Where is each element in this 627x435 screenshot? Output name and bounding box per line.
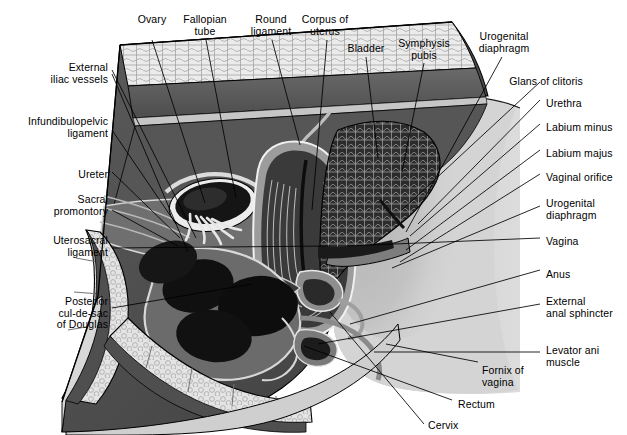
label-ovary-line: Ovary [138,14,167,26]
label-rectum-line: Rectum [458,399,495,411]
label-external-anal-sphincter: Externalanal sphincter [546,296,613,319]
label-urethra: Urethra [546,98,582,110]
label-symphysis-pubis: Symphysispubis [398,38,450,61]
label-uterosacral-ligament-line: ligament [53,247,108,259]
label-infundibulopelvic-ligament: Infundibulopelvicligament [28,116,108,139]
label-urethra-line: Urethra [546,98,582,110]
label-external-anal-sphincter-line: anal sphincter [546,308,613,320]
label-bladder: Bladder [348,43,385,55]
label-round-ligament-line: ligament [251,26,292,38]
label-glans-of-clitoris: Glans of clitoris [509,76,583,88]
label-bladder-line: Bladder [348,43,385,55]
label-ureter-line: Ureter [78,169,108,181]
label-external-iliac-vessels-line: External [51,62,108,74]
label-urogenital-diaphragm-right-line: Urogenital [546,198,597,210]
label-vaginal-orifice: Vaginal orifice [546,172,613,184]
label-anus: Anus [546,269,570,281]
label-external-iliac-vessels: Externaliliac vessels [51,62,108,85]
label-urogenital-diaphragm-top: Urogenitaldiaphragm [479,31,530,54]
label-cervix-line: Cervix [428,420,458,432]
label-corpus-uteri-line: Corpus of [302,14,348,26]
label-corpus-uteri: Corpus ofuterus [302,14,348,37]
label-levator-ani-muscle: Levator animuscle [546,345,599,368]
label-vaginal-orifice-line: Vaginal orifice [546,172,613,184]
label-vagina-line: Vagina [546,236,579,248]
label-fornix-of-vagina-line: Fornix of [482,365,524,377]
label-sacral-promontory: Sacralpromontory [54,194,108,217]
label-labium-minus-line: Labium minus [546,122,613,134]
anatomical-figure: OvaryFallopiantubeRoundligamentCorpus of… [0,0,627,435]
label-external-anal-sphincter-line: External [546,296,613,308]
label-levator-ani-muscle-line: muscle [546,357,599,369]
label-fallopian-tube-line: Fallopian [183,14,227,26]
label-cervix: Cervix [428,420,458,432]
label-urogenital-diaphragm-right: Urogenitaldiaphragm [546,198,597,221]
label-fornix-of-vagina: Fornix ofvagina [482,365,524,388]
label-posterior-cul-de-sac-line: Posterior [57,296,108,308]
label-levator-ani-muscle-line: Levator ani [546,345,599,357]
label-sacral-promontory-line: Sacral [54,194,108,206]
label-glans-of-clitoris-line: Glans of clitoris [509,76,583,88]
label-ovary: Ovary [138,14,167,26]
label-sacral-promontory-line: promontory [54,206,108,218]
label-symphysis-pubis-line: pubis [398,50,450,62]
label-rectum: Rectum [458,399,495,411]
label-infundibulopelvic-ligament-line: ligament [28,128,108,140]
label-posterior-cul-de-sac-line: of Douglas [57,319,108,331]
label-urogenital-diaphragm-top-line: Urogenital [479,31,530,43]
label-labium-majus: Labium majus [546,148,613,160]
label-fallopian-tube-line: tube [183,26,227,38]
label-corpus-uteri-line: uterus [302,26,348,38]
label-round-ligament: Roundligament [251,14,292,37]
label-labium-majus-line: Labium majus [546,148,613,160]
label-urogenital-diaphragm-right-line: diaphragm [546,210,597,222]
label-external-iliac-vessels-line: iliac vessels [51,74,108,86]
label-anus-line: Anus [546,269,570,281]
label-labium-minus: Labium minus [546,122,613,134]
label-round-ligament-line: Round [251,14,292,26]
label-symphysis-pubis-line: Symphysis [398,38,450,50]
label-fallopian-tube: Fallopiantube [183,14,227,37]
label-infundibulopelvic-ligament-line: Infundibulopelvic [28,116,108,128]
label-urogenital-diaphragm-top-line: diaphragm [479,43,530,55]
label-vagina: Vagina [546,236,579,248]
label-uterosacral-ligament-line: Uterosacral [53,235,108,247]
label-posterior-cul-de-sac: Posteriorcul-de-sacof Douglas [57,296,108,331]
label-uterosacral-ligament: Uterosacralligament [53,235,108,258]
label-ureter: Ureter [78,169,108,181]
label-fornix-of-vagina-line: vagina [482,377,524,389]
